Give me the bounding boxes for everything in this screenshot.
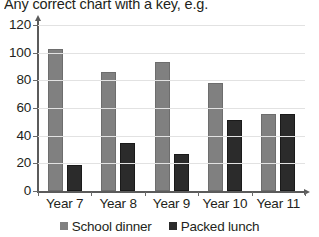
y-axis-tick-label: 120 bbox=[9, 18, 31, 32]
x-axis-tick bbox=[305, 192, 306, 196]
y-axis-tick-label: 20 bbox=[16, 157, 31, 171]
x-axis-tick bbox=[252, 192, 253, 196]
bar bbox=[208, 83, 223, 191]
x-axis-line bbox=[37, 191, 305, 193]
bar bbox=[227, 120, 242, 191]
bar bbox=[174, 154, 189, 191]
bar bbox=[155, 62, 170, 191]
bar bbox=[120, 143, 135, 191]
chart-title: Any correct chart with a key, e.g. bbox=[4, 0, 315, 13]
x-axis-tick bbox=[198, 192, 199, 196]
bar bbox=[280, 114, 295, 191]
x-axis-tick bbox=[91, 192, 92, 196]
bar-chart: Any correct chart with a key, e.g. 02040… bbox=[0, 0, 319, 237]
legend-swatch bbox=[169, 222, 177, 230]
chart-legend: School dinnerPacked lunch bbox=[0, 216, 319, 236]
x-axis-category-label: Year 7 bbox=[46, 196, 83, 212]
legend-item: Packed lunch bbox=[169, 219, 260, 234]
bar bbox=[101, 72, 116, 191]
x-axis-category-label: Year 8 bbox=[99, 196, 136, 212]
legend-label: Packed lunch bbox=[181, 219, 260, 234]
bars-layer bbox=[38, 20, 305, 191]
x-axis-category-label: Year 11 bbox=[256, 196, 300, 212]
x-axis-tick bbox=[145, 192, 146, 196]
gridline bbox=[38, 80, 305, 81]
x-axis-category-label: Year 9 bbox=[153, 196, 190, 212]
y-axis-labels: 020406080100120 bbox=[0, 20, 34, 192]
gridline bbox=[38, 136, 305, 137]
y-axis-tick-label: 0 bbox=[24, 184, 31, 198]
gridline bbox=[38, 25, 305, 26]
bar bbox=[48, 49, 63, 191]
gridline bbox=[38, 53, 305, 54]
legend-label: School dinner bbox=[72, 219, 152, 234]
bar bbox=[261, 114, 276, 191]
y-axis-tick-label: 40 bbox=[16, 129, 31, 143]
legend-swatch bbox=[60, 222, 68, 230]
gridline bbox=[38, 108, 305, 109]
x-axis-labels: Year 7Year 8Year 9Year 10Year 11 bbox=[38, 196, 319, 216]
y-axis-tick-label: 100 bbox=[9, 46, 31, 60]
gridline bbox=[38, 163, 305, 164]
y-axis-tick-label: 80 bbox=[16, 74, 31, 88]
bar bbox=[67, 165, 82, 191]
legend-item: School dinner bbox=[60, 219, 152, 234]
y-axis-tick-label: 60 bbox=[16, 101, 31, 115]
x-axis-tick bbox=[38, 192, 39, 196]
x-axis-category-label: Year 10 bbox=[203, 196, 248, 212]
plot-area: 020406080100120 Year 7Year 8Year 9Year 1… bbox=[0, 20, 319, 198]
